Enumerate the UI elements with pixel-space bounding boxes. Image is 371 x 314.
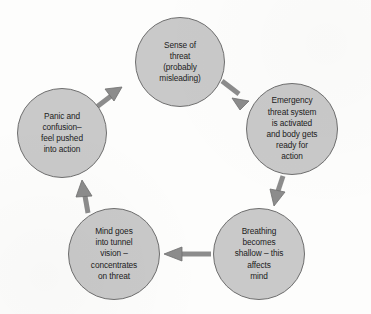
- arrow-sense-to-emergency: [222, 81, 249, 110]
- node-label-panic-and-confusion: Panic and confusion– feel pushed into ac…: [35, 111, 89, 156]
- node-label-breathing-becomes-shallow: Breathing becomes shallow – this affects…: [229, 226, 289, 282]
- node-breathing-becomes-shallow[interactable]: Breathing becomes shallow – this affects…: [213, 208, 305, 300]
- arrow-mind-to-panic: [76, 180, 92, 213]
- node-label-mind-goes-into-tunnel-vision: Mind goes into tunnel vision – concentra…: [85, 226, 143, 282]
- vicious-cycle-diagram: Sense of threat (probably misleading) Em…: [0, 0, 371, 314]
- arrow-emergency-to-breathing: [270, 176, 285, 206]
- node-label-sense-of-threat: Sense of threat (probably misleading): [153, 40, 206, 85]
- node-label-emergency-threat-system: Emergency threat system is activated and…: [261, 95, 324, 162]
- node-mind-goes-into-tunnel-vision[interactable]: Mind goes into tunnel vision – concentra…: [68, 208, 160, 300]
- node-emergency-threat-system[interactable]: Emergency threat system is activated and…: [246, 83, 338, 175]
- node-panic-and-confusion[interactable]: Panic and confusion– feel pushed into ac…: [17, 88, 107, 178]
- node-sense-of-threat[interactable]: Sense of threat (probably misleading): [135, 17, 225, 107]
- arrow-breathing-to-mind: [164, 247, 211, 261]
